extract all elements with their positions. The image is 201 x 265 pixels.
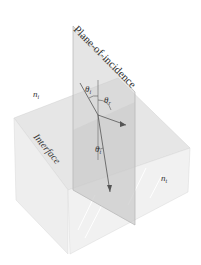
n-incident-label: ni <box>33 89 40 100</box>
interface-diagram: Plane-of-incidence Interface ni nt θi θr… <box>0 0 201 265</box>
